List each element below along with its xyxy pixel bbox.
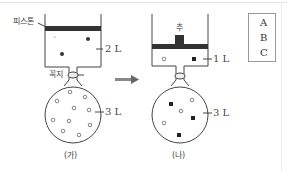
cylinder-volume-na: 1 L [213, 54, 229, 64]
cylinder-volume-ga: 2 L [105, 44, 121, 54]
particle-c [192, 57, 196, 61]
particle-b [162, 57, 166, 61]
weight-label: 추 [176, 24, 183, 32]
caption-ga: (가) [64, 152, 77, 160]
particle-a [86, 37, 90, 41]
piston-label: 피스톤 [13, 18, 34, 26]
legend-label-c: C [260, 47, 268, 59]
flask-ga [45, 87, 101, 143]
particle-a [60, 52, 64, 56]
diagram-canvas [0, 0, 287, 172]
legend: A B C [248, 13, 276, 62]
valve-ga [64, 67, 84, 86]
weight [175, 35, 184, 44]
speck [54, 36, 55, 37]
legend-label-a: A [260, 17, 267, 29]
legend-label-b: B [260, 32, 267, 44]
piston-ga [45, 26, 101, 31]
flask-volume-na: 3 L [213, 108, 229, 118]
process-arrow [115, 75, 139, 84]
cylinder-ga [45, 14, 101, 67]
flask-volume-ga: 3 L [105, 107, 121, 117]
valve-label: 꼭지 [49, 71, 63, 79]
piston-na [152, 44, 208, 49]
caption-na: (나) [172, 152, 185, 160]
valve-na [171, 66, 189, 86]
